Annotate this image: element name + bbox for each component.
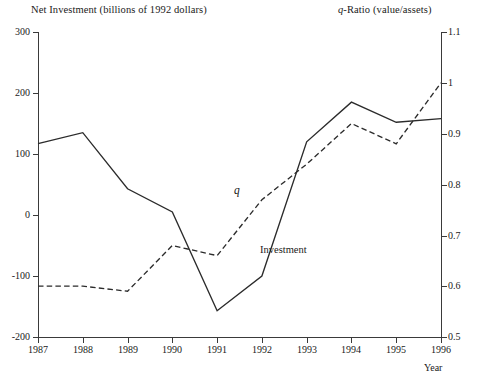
chart-figure: Net Investment (billions of 1992 dollars… <box>0 0 479 380</box>
investment-series-annotation: Investment <box>260 244 307 255</box>
series-line-investment <box>38 102 441 311</box>
q-series-annotation: q <box>234 184 240 196</box>
